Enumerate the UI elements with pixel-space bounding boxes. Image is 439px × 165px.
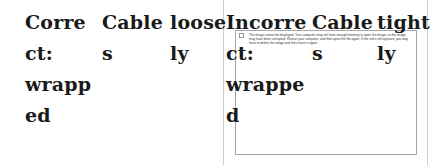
cell-text: s	[102, 38, 113, 69]
cell-text: ed	[25, 100, 51, 131]
cell-text: ly	[377, 38, 396, 69]
cell-text: Cable	[102, 7, 163, 38]
cell-text: Corre	[25, 7, 86, 38]
cell-text: wrapp	[25, 69, 91, 100]
cell-text: tight	[377, 7, 430, 38]
cell-text: s	[312, 38, 323, 69]
cell-text: d	[226, 100, 240, 131]
cell-text: ct:	[226, 38, 254, 69]
cell-text: loose	[170, 7, 226, 38]
cell-text: ly	[170, 38, 189, 69]
cell-text: wrappe	[226, 69, 305, 100]
cell-text: ct:	[25, 38, 53, 69]
cell-text: Incorre	[226, 7, 306, 38]
cell-text: Cable	[312, 7, 373, 38]
